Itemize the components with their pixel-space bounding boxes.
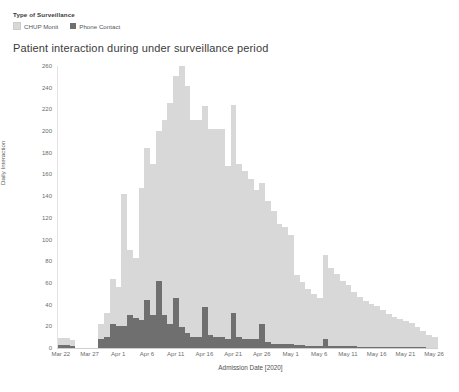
y-tick-label: 20 xyxy=(45,323,52,329)
y-tick-label: 120 xyxy=(42,215,52,221)
y-tick-label: 100 xyxy=(42,237,52,243)
y-axis-title: Daily Interaction xyxy=(0,141,6,185)
y-tick-label: 160 xyxy=(42,171,52,177)
x-axis-ticks: Mar 22Mar 27Apr 1Apr 6Apr 11Apr 16Apr 21… xyxy=(0,351,459,363)
x-tick-label: May 11 xyxy=(338,351,357,357)
x-tick-label: Mar 22 xyxy=(52,351,71,357)
y-tick-label: 260 xyxy=(42,63,52,69)
x-tick-label: Apr 1 xyxy=(111,351,125,357)
y-tick-label: 140 xyxy=(42,193,52,199)
x-tick-label: May 1 xyxy=(282,351,298,357)
y-tick-label: 180 xyxy=(42,150,52,156)
x-tick-label: May 16 xyxy=(367,351,387,357)
y-tick-label: 60 xyxy=(45,280,52,286)
x-tick-label: May 6 xyxy=(311,351,327,357)
x-axis-title-text: Admission Date [2020] xyxy=(176,364,282,371)
chart-plot: 020406080100120140160180200220240260 Dai… xyxy=(0,0,459,392)
bar-column[interactable] xyxy=(432,66,438,348)
x-axis-title: Admission Date [2020] xyxy=(0,364,459,371)
x-tick-label: Apr 16 xyxy=(196,351,214,357)
y-tick-label: 80 xyxy=(45,258,52,264)
x-tick-label: Mar 27 xyxy=(80,351,99,357)
x-tick-label: Apr 11 xyxy=(167,351,184,357)
y-tick-label: 220 xyxy=(42,106,52,112)
x-tick-label: Apr 21 xyxy=(224,351,242,357)
plot-area xyxy=(58,66,437,348)
x-tick-label: Apr 26 xyxy=(253,351,271,357)
bar-segment-chup-monit xyxy=(432,337,438,348)
x-axis-line xyxy=(57,348,438,349)
y-tick-label: 240 xyxy=(42,85,52,91)
y-tick-label: 40 xyxy=(45,302,52,308)
x-tick-label: Apr 6 xyxy=(140,351,154,357)
x-tick-label: May 26 xyxy=(424,351,444,357)
x-tick-label: May 21 xyxy=(396,351,416,357)
y-tick-label: 200 xyxy=(42,128,52,134)
y-axis-ticks: 020406080100120140160180200220240260 xyxy=(22,0,52,392)
bar-series-container xyxy=(58,66,437,348)
